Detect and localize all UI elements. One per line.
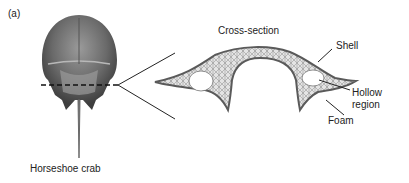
diagram-canvas xyxy=(0,0,409,183)
shell-label: Shell xyxy=(336,40,358,51)
cross-section-shape xyxy=(155,47,356,110)
cross-section-title: Cross-section xyxy=(218,25,279,36)
hollow-label-line2: region xyxy=(352,99,380,110)
panel-label: (a) xyxy=(8,8,20,19)
crab-label: Horseshoe crab xyxy=(30,163,101,174)
hollow-label-line1: Hollow xyxy=(352,87,382,98)
foam-label: Foam xyxy=(328,115,354,126)
horseshoe-crab-image xyxy=(42,15,117,158)
